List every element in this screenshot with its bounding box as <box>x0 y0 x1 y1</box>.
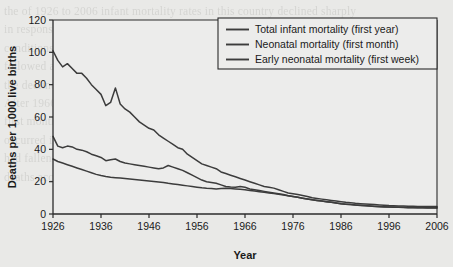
y-tick-label: 120 <box>28 14 46 26</box>
y-tick-label: 0 <box>40 208 46 220</box>
legend-label-1: Neonatal mortality (first month) <box>255 38 399 50</box>
x-tick-label: 1966 <box>233 220 257 232</box>
x-tick-label: 1936 <box>89 220 113 232</box>
y-axis-title: Deaths per 1,000 live births <box>6 46 18 188</box>
legend-entries: Total infant mortality (first year)Neona… <box>226 23 419 65</box>
y-tick-label: 100 <box>28 46 46 58</box>
x-tick-label: 1976 <box>281 220 305 232</box>
x-tick-label: 2006 <box>425 220 449 232</box>
x-ticks: 192619361946195619661976198619962006 <box>41 214 449 232</box>
legend-label-0: Total infant mortality (first year) <box>255 23 399 35</box>
figure-container: the of 1926 to 2006 infant mortality rat… <box>0 0 453 267</box>
y-ticks: 020406080100120 <box>28 14 53 220</box>
y-tick-label: 80 <box>34 78 46 90</box>
y-tick-label: 60 <box>34 111 46 123</box>
x-tick-label: 1926 <box>41 220 65 232</box>
y-tick-label: 20 <box>34 175 46 187</box>
x-tick-label: 1996 <box>377 220 401 232</box>
y-tick-label: 40 <box>34 143 46 155</box>
x-axis-title: Year <box>233 249 257 261</box>
line-chart: 020406080100120 192619361946195619661976… <box>0 0 453 267</box>
x-tick-label: 1986 <box>329 220 353 232</box>
x-tick-label: 1956 <box>185 220 209 232</box>
legend-label-2: Early neonatal mortality (first week) <box>255 53 419 65</box>
x-tick-label: 1946 <box>137 220 161 232</box>
chart-legend: Total infant mortality (first year)Neona… <box>218 18 437 69</box>
